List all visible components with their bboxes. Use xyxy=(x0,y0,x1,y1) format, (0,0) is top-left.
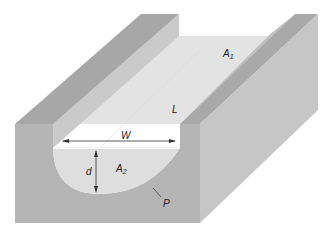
label-d: d xyxy=(86,166,92,177)
width-dimension-arrow xyxy=(62,139,176,143)
label-p: P xyxy=(163,198,170,209)
label-l: L xyxy=(172,104,178,115)
label-w: W xyxy=(121,130,132,141)
channel-diagram: A1 L W d A2 P xyxy=(0,0,330,234)
